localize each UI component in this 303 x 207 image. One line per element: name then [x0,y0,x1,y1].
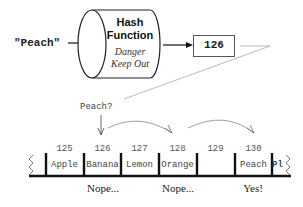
hash-output-box: 126 [193,35,235,57]
hash-sub-1: Danger [100,46,160,58]
slot-index: 126 [84,144,121,154]
slot-index: 128 [159,144,196,154]
probe-result: Nope... [78,182,128,194]
slot-index: 130 [235,144,272,154]
probe-result: Nope... [153,182,203,194]
probe-result: Yes! [228,182,278,194]
slot-value: Apple [46,160,83,170]
slot-index: 125 [46,144,83,154]
hash-function-subtitle: Danger Keep Out [100,46,160,70]
query-label: Peach? [80,102,112,112]
hash-title-1: Hash [100,16,160,29]
hash-title-2: Function [100,29,160,42]
slot-value-partial: Pl [272,160,288,170]
slot-index: 129 [197,144,234,154]
slot-value: Lemon [121,160,158,170]
slot-value: Banana [84,160,121,170]
hash-function-title: Hash Function [100,16,160,42]
input-key: "Peach" [14,37,60,49]
slot-value: Peach [235,160,272,170]
slot-value: Orange [159,160,196,170]
slot-index: 127 [121,144,158,154]
hash-sub-2: Keep Out [100,58,160,70]
